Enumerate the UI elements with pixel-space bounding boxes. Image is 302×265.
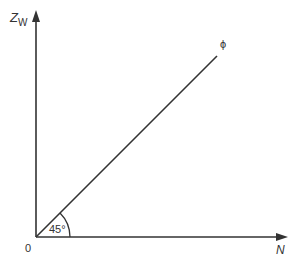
x-axis-arrowhead [276, 233, 288, 241]
phi-line [36, 56, 217, 237]
y-axis-label-subscript: W [18, 17, 28, 28]
x-axis-label: N [276, 243, 285, 257]
angle-label: 45° [49, 223, 66, 235]
origin-label: 0 [25, 242, 31, 254]
diagram: ZW N 0 ϕ 45° [0, 0, 302, 265]
phi-label: ϕ [220, 38, 226, 50]
y-axis-label: ZW [9, 10, 28, 28]
y-axis-arrowhead [32, 10, 40, 22]
